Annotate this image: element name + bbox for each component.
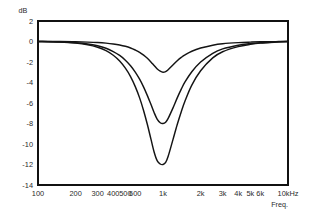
y-tick-label: -10 <box>22 140 33 149</box>
y-tick-label: -2 <box>26 58 33 67</box>
x-tick-label: 4k <box>234 189 242 198</box>
x-tick-label: 1k <box>159 189 167 198</box>
x-axis-tick-labels: 1002003004005006001k2k3k4k5k6k10kHz <box>32 189 299 198</box>
y-tick-label: 0 <box>29 37 33 46</box>
x-tick-label: 100 <box>32 189 44 198</box>
eq-response-chart: 20-2-4-6-8-10-12-14 1002003004005006001k… <box>0 0 317 219</box>
x-tick-label: 400 <box>107 189 119 198</box>
y-tick-label: -4 <box>26 78 33 87</box>
x-tick-label: 10kHz <box>278 189 299 198</box>
y-axis-unit-label: dB <box>19 6 28 15</box>
y-tick-label: 2 <box>29 17 33 26</box>
x-tick-label: 600 <box>129 189 141 198</box>
y-tick-label: -12 <box>22 160 33 169</box>
x-tick-label: 300 <box>91 189 103 198</box>
plot-frame <box>38 21 288 185</box>
x-tick-label: 2k <box>197 189 205 198</box>
x-tick-label: 3k <box>219 189 227 198</box>
y-tick-label: -6 <box>26 99 33 108</box>
x-tick-label: 5k <box>246 189 254 198</box>
x-tick-label: 6k <box>256 189 264 198</box>
x-axis-name-label: Freq. <box>271 200 288 209</box>
x-tick-label: 200 <box>69 189 81 198</box>
y-tick-label: -8 <box>26 119 33 128</box>
chart-canvas: 20-2-4-6-8-10-12-14 1002003004005006001k… <box>0 0 317 219</box>
